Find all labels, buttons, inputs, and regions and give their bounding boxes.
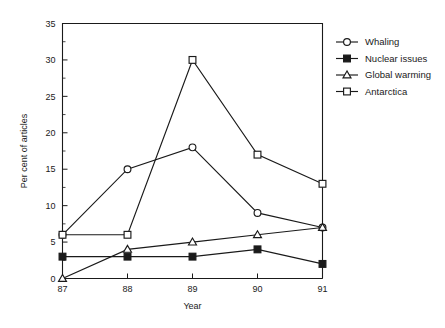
data-point-marker-antarctica <box>59 231 66 238</box>
chart-container: 05101520253035 8788899091 WhalingNuclear… <box>0 0 445 328</box>
data-point-marker-legend-whaling <box>344 39 351 46</box>
data-point-marker-nuclear-issues <box>59 253 66 260</box>
line-chart: 05101520253035 8788899091 WhalingNuclear… <box>0 0 445 328</box>
data-point-marker-nuclear-issues <box>189 253 196 260</box>
data-point-marker-antarctica <box>124 231 131 238</box>
series-line <box>63 147 323 234</box>
legend-label: Global warming <box>365 69 431 80</box>
data-point-marker-antarctica <box>254 151 261 158</box>
x-tick-label: 91 <box>317 284 327 294</box>
data-point-marker-nuclear-issues <box>319 261 326 268</box>
series-global-warming <box>59 224 327 282</box>
chart-series-group <box>59 57 327 282</box>
legend-item-antarctica[interactable]: Antarctica <box>336 86 408 97</box>
legend-label: Nuclear issues <box>365 53 428 64</box>
y-axis-title: Per cent of articles <box>19 113 29 188</box>
data-point-marker-legend-antarctica <box>344 88 351 95</box>
y-tick-label: 35 <box>45 19 55 29</box>
data-point-marker-legend-nuclear-issues <box>344 55 351 62</box>
x-tick-label: 88 <box>122 284 132 294</box>
legend-label: Whaling <box>365 36 399 47</box>
data-point-marker-nuclear-issues <box>254 246 261 253</box>
series-nuclear-issues <box>59 246 326 267</box>
x-tick-label: 89 <box>187 284 197 294</box>
series-whaling <box>59 144 326 238</box>
x-axis-tick-labels: 8788899091 <box>57 284 327 294</box>
y-tick-label: 20 <box>45 128 55 138</box>
chart-legend: WhalingNuclear issuesGlobal warmingAntar… <box>336 36 431 97</box>
y-tick-label: 5 <box>50 237 55 247</box>
y-tick-label: 25 <box>45 92 55 102</box>
data-point-marker-whaling <box>124 166 131 173</box>
y-axis-tick-labels: 05101520253035 <box>45 19 55 284</box>
data-point-marker-nuclear-issues <box>124 253 131 260</box>
data-point-marker-whaling <box>254 210 261 217</box>
data-point-marker-global-warming <box>59 275 67 282</box>
y-tick-label: 0 <box>50 274 55 284</box>
data-point-marker-antarctica <box>319 180 326 187</box>
y-tick-label: 30 <box>45 55 55 65</box>
y-tick-label: 10 <box>45 201 55 211</box>
legend-item-nuclear-issues[interactable]: Nuclear issues <box>336 53 428 64</box>
y-tick-label: 15 <box>45 164 55 174</box>
x-axis-title: Year <box>183 301 201 311</box>
x-tick-label: 87 <box>57 284 67 294</box>
legend-label: Antarctica <box>365 86 408 97</box>
x-tick-label: 90 <box>252 284 262 294</box>
legend-item-global-warming[interactable]: Global warming <box>336 69 431 80</box>
legend-item-whaling[interactable]: Whaling <box>336 36 399 47</box>
data-point-marker-whaling <box>189 144 196 151</box>
data-point-marker-antarctica <box>189 57 196 64</box>
